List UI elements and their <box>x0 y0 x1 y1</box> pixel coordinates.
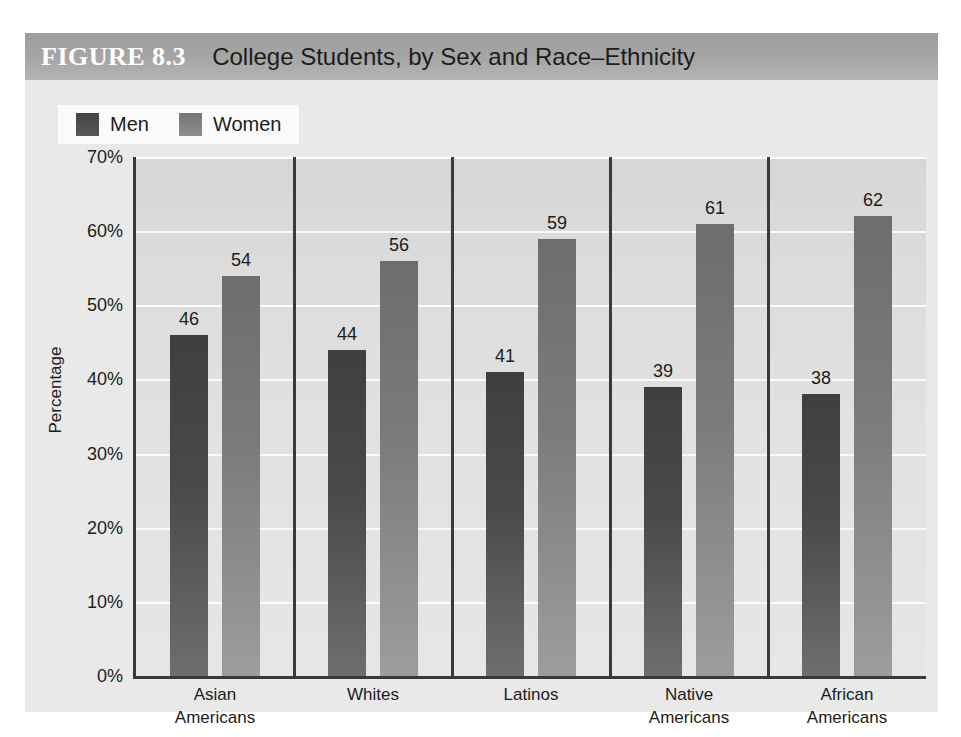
y-axis-tick-label: 70% <box>61 147 123 168</box>
bar-men-2 <box>328 350 366 676</box>
x-axis-label-line: Latinos <box>451 684 611 707</box>
bar-value-label: 61 <box>705 198 725 219</box>
gridline <box>136 231 926 233</box>
figure-title-bar: FIGURE 8.3 College Students, by Sex and … <box>25 33 938 80</box>
y-axis-tick-labels: 70%60%50%40%30%20%10%0% <box>61 80 123 712</box>
y-axis-tick-label: 0% <box>61 666 123 687</box>
x-axis-label: AfricanAmericans <box>767 684 927 730</box>
x-axis-label-line: African <box>767 684 927 707</box>
legend-label-women: Women <box>213 113 282 136</box>
category-divider <box>609 157 612 676</box>
bar-men-3 <box>486 372 524 676</box>
bar-value-label: 38 <box>811 368 831 389</box>
legend-entry-women: Women <box>179 113 282 136</box>
bar-value-label: 39 <box>653 361 673 382</box>
x-axis-label-line: Americans <box>135 707 295 730</box>
figure-number: FIGURE 8.3 <box>41 42 186 72</box>
legend-swatch-men-icon <box>76 113 99 136</box>
x-axis-label-line: Whites <box>293 684 453 707</box>
bar-women-5 <box>854 216 892 676</box>
x-axis-label: Latinos <box>451 684 611 707</box>
bar-value-label: 59 <box>547 213 567 234</box>
y-axis-tick-label: 40% <box>61 369 123 390</box>
x-axis-label-line: Native <box>609 684 769 707</box>
plot-area: 46444139385456596162 <box>133 157 926 679</box>
bar-value-label: 56 <box>389 235 409 256</box>
bar-men-4 <box>644 387 682 676</box>
bar-value-label: 44 <box>337 324 357 345</box>
bar-value-label: 46 <box>179 309 199 330</box>
bar-men-1 <box>170 335 208 676</box>
chart-legend: Men Women <box>58 105 299 144</box>
x-axis-label-line: Americans <box>609 707 769 730</box>
y-axis-tick-label: 50% <box>61 295 123 316</box>
x-axis-label: NativeAmericans <box>609 684 769 730</box>
figure-title: College Students, by Sex and Race–Ethnic… <box>212 43 695 71</box>
x-axis-category-labels: AsianAmericansWhitesLatinosNativeAmerica… <box>136 684 926 737</box>
bar-women-2 <box>380 261 418 676</box>
category-divider <box>293 157 296 676</box>
bar-women-4 <box>696 224 734 676</box>
legend-swatch-women-icon <box>179 113 202 136</box>
x-axis-label: AsianAmericans <box>135 684 295 730</box>
category-divider <box>767 157 770 676</box>
legend-entry-men: Men <box>76 113 149 136</box>
x-axis-label-line: Americans <box>767 707 927 730</box>
figure-container: FIGURE 8.3 College Students, by Sex and … <box>25 33 938 712</box>
bar-value-label: 54 <box>231 250 251 271</box>
bar-women-3 <box>538 239 576 676</box>
x-axis-label: Whites <box>293 684 453 707</box>
y-axis-tick-label: 10% <box>61 591 123 612</box>
bar-value-label: 41 <box>495 346 515 367</box>
bar-women-1 <box>222 276 260 676</box>
category-divider <box>451 157 454 676</box>
y-axis-tick-label: 20% <box>61 517 123 538</box>
chart-body: Percentage 70%60%50%40%30%20%10%0% 46444… <box>25 80 938 712</box>
gridline <box>136 157 926 159</box>
y-axis-tick-label: 30% <box>61 443 123 464</box>
legend-label-men: Men <box>110 113 149 136</box>
plot-inner: 46444139385456596162 <box>136 157 926 676</box>
bar-men-5 <box>802 394 840 676</box>
bar-value-label: 62 <box>863 190 883 211</box>
y-axis-tick-label: 60% <box>61 221 123 242</box>
x-axis-label-line: Asian <box>135 684 295 707</box>
